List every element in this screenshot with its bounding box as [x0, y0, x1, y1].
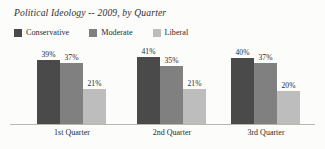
bar-conservative[interactable]	[231, 58, 254, 124]
legend-label-liberal: Liberal	[165, 28, 189, 37]
legend-swatch-liberal	[153, 29, 161, 37]
category-label-1st-quarter: 1st Quarter	[54, 128, 90, 137]
bar-value-label: 21%	[88, 79, 102, 88]
bar-moderate[interactable]	[60, 63, 83, 124]
bar-conservative[interactable]	[37, 60, 60, 124]
bar-group-2nd-quarter: 41% 35% 21%	[137, 50, 206, 124]
bar-value-label: 37%	[259, 53, 273, 62]
category-label-3rd-quarter: 3rd Quarter	[247, 128, 284, 137]
chart-legend: Conservative Moderate Liberal	[14, 28, 188, 37]
bar-wrap: 21%	[183, 50, 206, 124]
x-axis-line	[10, 124, 315, 125]
legend-item-conservative[interactable]: Conservative	[14, 28, 69, 37]
legend-swatch-moderate	[89, 29, 97, 37]
legend-item-moderate[interactable]: Moderate	[89, 28, 132, 37]
bar-value-label: 21%	[188, 79, 202, 88]
plot-area: 39% 37% 21% 41% 35% 21%	[0, 48, 325, 126]
bar-chart: Political Ideology -- 2009, by Quarter C…	[0, 0, 325, 149]
bar-value-label: 37%	[65, 53, 79, 62]
legend-label-conservative: Conservative	[26, 28, 69, 37]
bar-wrap: 37%	[60, 50, 83, 124]
bar-group-1st-quarter: 39% 37% 21%	[37, 50, 106, 124]
bar-value-label: 41%	[142, 47, 156, 56]
bar-value-label: 40%	[236, 48, 250, 57]
bar-value-label: 39%	[42, 50, 56, 59]
chart-title: Political Ideology -- 2009, by Quarter	[14, 7, 166, 18]
bar-liberal[interactable]	[277, 91, 300, 124]
category-label-2nd-quarter: 2nd Quarter	[153, 128, 191, 137]
x-axis-labels: 1st Quarter 2nd Quarter 3rd Quarter	[0, 128, 325, 142]
legend-item-liberal[interactable]: Liberal	[153, 28, 189, 37]
bar-wrap: 37%	[254, 50, 277, 124]
bar-wrap: 39%	[37, 50, 60, 124]
bar-value-label: 35%	[165, 56, 179, 65]
bar-group-3rd-quarter: 40% 37% 20%	[231, 50, 300, 124]
bar-moderate[interactable]	[160, 66, 183, 124]
bar-moderate[interactable]	[254, 63, 277, 124]
bar-wrap: 35%	[160, 50, 183, 124]
bar-wrap: 41%	[137, 50, 160, 124]
bar-wrap: 20%	[277, 50, 300, 124]
legend-swatch-conservative	[14, 29, 22, 37]
bar-liberal[interactable]	[183, 89, 206, 124]
legend-label-moderate: Moderate	[101, 28, 132, 37]
bar-value-label: 20%	[282, 81, 296, 90]
bar-wrap: 40%	[231, 50, 254, 124]
bar-liberal[interactable]	[83, 89, 106, 124]
bar-conservative[interactable]	[137, 57, 160, 124]
bar-wrap: 21%	[83, 50, 106, 124]
